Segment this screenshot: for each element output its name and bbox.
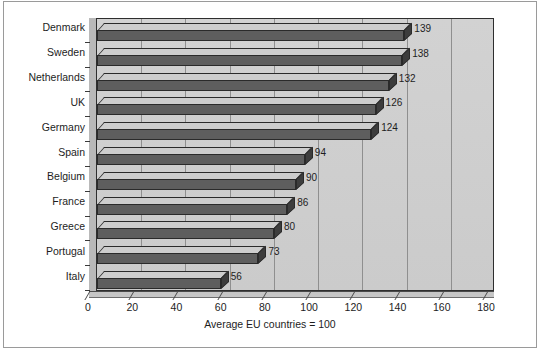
bar-front-face: [97, 30, 404, 41]
y-axis-label: Portugal: [46, 245, 85, 257]
x-axis-label: 140: [389, 301, 407, 314]
y-axis-label: Spain: [58, 146, 85, 158]
y-axis-tick: [85, 166, 90, 167]
y-axis-tick: [85, 42, 90, 43]
bar: [97, 48, 410, 67]
y-axis-tick: [85, 91, 90, 92]
bar-front-face: [97, 129, 371, 140]
x-axis-label: 180: [477, 301, 495, 314]
bar: [97, 97, 384, 116]
y-axis-label: Italy: [66, 270, 85, 282]
x-axis-label: 160: [433, 301, 451, 314]
bar-value-label: 138: [412, 48, 429, 59]
bar-front-face: [97, 55, 402, 66]
bar-value-label: 124: [381, 122, 398, 133]
bar-front-face: [97, 104, 376, 115]
y-axis-tick: [85, 191, 90, 192]
y-axis-label: Greece: [51, 220, 85, 232]
y-axis-label: UK: [70, 96, 85, 108]
bar-value-label: 126: [386, 97, 403, 108]
bar: [97, 73, 397, 92]
x-axis-band: [89, 291, 494, 298]
bar: [97, 246, 266, 265]
bar: [97, 221, 282, 240]
bar-value-label: 73: [268, 246, 279, 257]
y-axis-label: Sweden: [47, 46, 85, 58]
y-axis-tick: [85, 265, 90, 266]
bar: [97, 23, 412, 42]
y-axis-category-labels: DenmarkSwedenNetherlandsUKGermanySpainBe…: [0, 18, 85, 291]
bar-front-face: [97, 179, 296, 190]
bar-front-face: [97, 204, 287, 215]
bar: [97, 197, 295, 216]
bar: [97, 122, 379, 141]
y-axis-label: Belgium: [47, 170, 85, 182]
x-axis-label: 80: [259, 301, 271, 314]
bar-value-label: 94: [315, 147, 326, 158]
gridline: [451, 19, 452, 290]
x-axis-label: 0: [85, 301, 91, 314]
bar-front-face: [97, 228, 274, 239]
x-axis-label: 60: [215, 301, 227, 314]
bar-value-label: 132: [399, 73, 416, 84]
y-axis-tick: [85, 116, 90, 117]
bar-value-label: 90: [306, 172, 317, 183]
bar-value-label: 56: [231, 271, 242, 282]
bar-front-face: [97, 253, 258, 264]
y-axis-label: Germany: [42, 121, 85, 133]
x-axis-line: [89, 291, 494, 292]
y-axis-tick: [85, 240, 90, 241]
y-axis-tick: [85, 67, 90, 68]
y-axis-label: France: [52, 195, 85, 207]
chart-caption: Average EU countries = 100: [0, 318, 540, 330]
y-axis-label: Denmark: [42, 21, 85, 33]
bar-value-label: 80: [284, 221, 295, 232]
bar: [97, 271, 229, 290]
bar-front-face: [97, 278, 221, 289]
y-axis-tick: [85, 141, 90, 142]
bar-front-face: [97, 80, 389, 91]
y-axis-tick: [85, 216, 90, 217]
bar-value-label: 86: [297, 197, 308, 208]
x-axis-label: 100: [300, 301, 318, 314]
bar: [97, 147, 313, 166]
y-axis-label: Netherlands: [28, 71, 85, 83]
plot-area: [96, 18, 494, 291]
x-axis-label: 120: [345, 301, 363, 314]
bar-front-face: [97, 154, 305, 165]
bar: [97, 172, 304, 191]
bar-value-label: 139: [414, 23, 431, 34]
x-axis-label: 40: [171, 301, 183, 314]
x-axis-label: 20: [126, 301, 138, 314]
bar-chart-figure: 139138132126124949086807356 DenmarkSwede…: [0, 0, 540, 351]
